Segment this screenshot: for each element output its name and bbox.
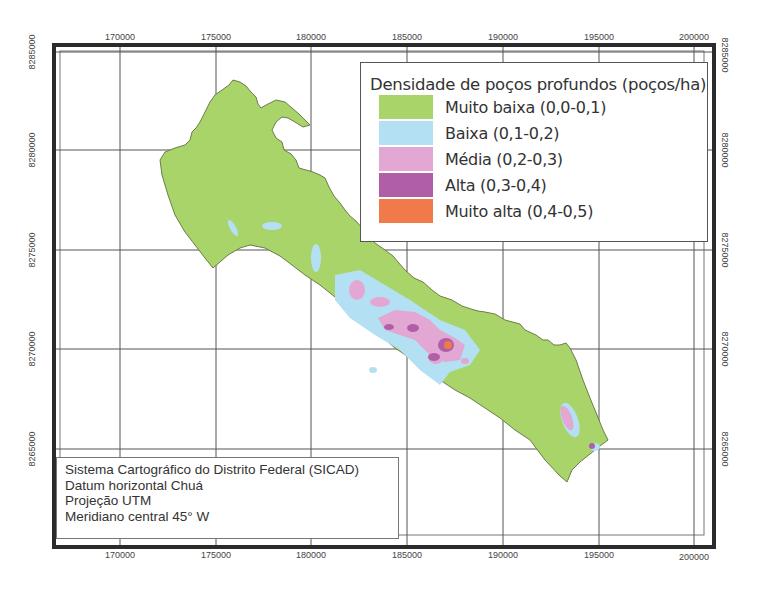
y-tick-right-8280000: 8280000 (720, 132, 730, 167)
y-tick-left-8280000: 8280000 (27, 132, 37, 167)
y-tick-right-8285000: 8285000 (720, 37, 730, 72)
legend-title: Densidade de poços profundos (poços/ha) (370, 75, 707, 94)
x-tick-bottom-170000: 170000 (105, 550, 135, 560)
info-line-datum: Datum horizontal Chuá (65, 478, 398, 494)
legend-label: Baixa (0,1-0,2) (445, 124, 559, 143)
x-tick-top-190000: 190000 (488, 32, 518, 42)
legend-item-media: Média (0,2-0,3) (379, 146, 707, 172)
legend-item-alta: Alta (0,3-0,4) (379, 172, 707, 198)
x-tick-bottom-200000: 200000 (679, 552, 709, 562)
info-line-meridian: Meridiano central 45° W (65, 509, 398, 525)
y-tick-right-8275000: 8275000 (720, 232, 730, 267)
x-tick-top-175000: 175000 (201, 32, 231, 42)
legend: Densidade de poços profundos (poços/ha) … (360, 62, 708, 242)
swatch-baixa (379, 121, 433, 145)
info-line-projection: Projeção UTM (65, 493, 398, 509)
y-tick-left-8285000: 8285000 (27, 34, 37, 69)
x-tick-bottom-190000: 190000 (488, 550, 518, 560)
x-tick-bottom-195000: 195000 (584, 550, 614, 560)
x-tick-top-195000: 195000 (584, 32, 614, 42)
swatch-media (379, 147, 433, 171)
x-tick-bottom-175000: 175000 (201, 550, 231, 560)
legend-label: Média (0,2-0,3) (445, 150, 563, 169)
y-tick-left-8270000: 8270000 (27, 331, 37, 366)
x-tick-bottom-185000: 185000 (392, 550, 422, 560)
y-tick-left-8265000: 8265000 (27, 431, 37, 466)
x-tick-bottom-180000: 180000 (296, 550, 326, 560)
legend-label: Muito baixa (0,0-0,1) (445, 98, 606, 117)
y-tick-left-8275000: 8275000 (27, 232, 37, 267)
x-tick-top-200000: 200000 (679, 32, 709, 42)
x-tick-top-185000: 185000 (392, 32, 422, 42)
legend-label: Muito alta (0,4-0,5) (445, 202, 593, 221)
legend-item-muito-alta: Muito alta (0,4-0,5) (379, 198, 707, 224)
projection-info-box: Sistema Cartográfico do Distrito Federal… (56, 457, 399, 539)
x-tick-top-170000: 170000 (105, 32, 135, 42)
legend-item-baixa: Baixa (0,1-0,2) (379, 120, 707, 146)
swatch-muito-baixa (379, 95, 433, 119)
legend-item-muito-baixa: Muito baixa (0,0-0,1) (379, 94, 707, 120)
density-map: 170000 175000 180000 185000 190000 19500… (0, 0, 758, 595)
legend-label: Alta (0,3-0,4) (445, 176, 547, 195)
y-tick-right-8265000: 8265000 (720, 431, 730, 466)
info-line-system: Sistema Cartográfico do Distrito Federal… (65, 462, 398, 478)
x-tick-top-180000: 180000 (296, 32, 326, 42)
swatch-alta (379, 173, 433, 197)
y-tick-right-8270000: 8270000 (720, 331, 730, 366)
swatch-muito-alta (379, 199, 433, 223)
